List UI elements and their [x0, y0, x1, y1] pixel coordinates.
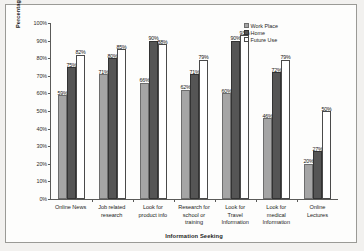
- bar-value-label: 27%: [312, 146, 322, 152]
- legend-swatch-icon: [244, 23, 249, 28]
- bar[interactable]: 66%: [140, 83, 149, 199]
- bar[interactable]: 75%: [67, 67, 76, 199]
- y-axis-tick-label: 50%: [37, 108, 52, 114]
- x-axis-category-label: Online News: [50, 204, 91, 227]
- y-axis-tick-label: 70%: [37, 73, 52, 79]
- bar-value-label: 90%: [230, 35, 240, 41]
- chart-legend: Work PlaceHomeFuture Use: [242, 21, 280, 44]
- y-axis-tick-label: 20%: [37, 161, 52, 167]
- y-axis-tick-label: 0%: [39, 196, 51, 202]
- bar-groups: 59%75%82%71%80%85%66%90%88%62%71%79%60%9…: [51, 23, 338, 199]
- x-axis-category-label: Look forproduct info: [132, 204, 173, 227]
- bar-value-label: 62%: [180, 84, 190, 90]
- y-axis-tick-label: 10%: [37, 178, 52, 184]
- bar-value-label: 80%: [107, 53, 117, 59]
- x-axis-category-label: Look forTravelInformation: [215, 204, 256, 227]
- y-axis-tick-label: 30%: [37, 143, 52, 149]
- legend-swatch-icon: [244, 37, 249, 42]
- bar-value-label: 85%: [116, 44, 126, 50]
- x-axis-category-label: Research forschool ortraining: [173, 204, 214, 227]
- bar[interactable]: 46%: [263, 118, 272, 199]
- legend-item-label: Work Place: [251, 23, 278, 29]
- bar[interactable]: 79%: [281, 60, 290, 199]
- bar-value-label: 72%: [271, 67, 281, 73]
- bar[interactable]: 71%: [190, 74, 199, 199]
- x-axis-category-label: Look formedicalInformation: [256, 204, 297, 227]
- bar[interactable]: 62%: [181, 90, 190, 199]
- bar-value-label: 20%: [303, 158, 313, 164]
- bar-value-label: 59%: [57, 90, 67, 96]
- bar-value-label: 66%: [139, 77, 149, 83]
- plot-area: 0%10%20%30%40%50%60%70%80%90%100% 59%75%…: [50, 23, 338, 200]
- bar-group: 59%75%82%: [51, 23, 92, 199]
- bar-group: 60%90%93%: [215, 23, 256, 199]
- scanned-page: Percentage of Users 0%10%20%30%40%50%60%…: [0, 0, 364, 251]
- bar[interactable]: 90%: [149, 41, 158, 199]
- bar[interactable]: 72%: [272, 72, 281, 199]
- bar-group: 62%71%79%: [174, 23, 215, 199]
- bar-value-label: 71%: [189, 69, 199, 75]
- bar-value-label: 88%: [157, 39, 167, 45]
- bar-group: 20%27%50%: [297, 23, 338, 199]
- bar[interactable]: 27%: [313, 151, 322, 199]
- bar[interactable]: 80%: [108, 58, 117, 199]
- y-axis-tick-label: 100%: [34, 20, 51, 26]
- legend-item-label: Home: [251, 30, 265, 36]
- bar-value-label: 75%: [66, 62, 76, 68]
- bar[interactable]: 60%: [222, 93, 231, 199]
- bar[interactable]: 59%: [58, 95, 67, 199]
- bar-value-label: 50%: [321, 106, 331, 112]
- y-axis-tick-label: 90%: [37, 38, 52, 44]
- bar-value-label: 82%: [75, 49, 85, 55]
- bar[interactable]: 82%: [76, 55, 85, 199]
- bar-value-label: 60%: [221, 88, 231, 94]
- bar[interactable]: 79%: [199, 60, 208, 199]
- bar-value-label: 71%: [98, 69, 108, 75]
- y-axis-tick-label: 40%: [37, 126, 52, 132]
- bar-value-label: 46%: [262, 113, 272, 119]
- legend-item: Home: [244, 29, 278, 36]
- y-axis-tick-label: 60%: [37, 90, 52, 96]
- legend-swatch-icon: [244, 30, 249, 35]
- chart-frame: Percentage of Users 0%10%20%30%40%50%60%…: [5, 4, 357, 243]
- bar[interactable]: 71%: [99, 74, 108, 199]
- x-axis-category-label: Job relatedresearch: [91, 204, 132, 227]
- bar-group: 46%72%79%: [256, 23, 297, 199]
- x-axis-title: Information Seeking: [50, 233, 338, 239]
- legend-item-label: Future Use: [251, 37, 278, 43]
- bar[interactable]: 85%: [117, 49, 126, 199]
- x-axis-category-label: OnlineLectures: [297, 204, 338, 227]
- bar-group: 71%80%85%: [92, 23, 133, 199]
- bar[interactable]: 90%: [231, 41, 240, 199]
- x-axis-category-labels: Online NewsJob relatedresearchLook forpr…: [50, 204, 338, 227]
- bar[interactable]: 20%: [304, 164, 313, 199]
- legend-item: Future Use: [244, 36, 278, 43]
- y-axis-tick-label: 80%: [37, 55, 52, 61]
- bar[interactable]: 50%: [322, 111, 331, 199]
- bar[interactable]: 88%: [158, 44, 167, 199]
- bar-value-label: 79%: [198, 54, 208, 60]
- bar-group: 66%90%88%: [133, 23, 174, 199]
- bar-value-label: 79%: [280, 54, 290, 60]
- legend-item: Work Place: [244, 22, 278, 29]
- y-axis-title: Percentage of Users: [15, 0, 21, 55]
- bar[interactable]: 93%: [240, 35, 249, 199]
